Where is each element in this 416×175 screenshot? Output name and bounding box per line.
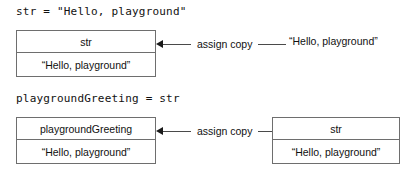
connector-assign-copy-bottom: assign copy xyxy=(156,124,272,138)
variable-box-playgroundgreeting: playgroundGreeting “Hello, playground” xyxy=(16,117,156,164)
connector-label: assign copy xyxy=(191,38,258,50)
code-caption-str-assignment: str = "Hello, playground" xyxy=(16,5,187,19)
connector-rule-left xyxy=(163,44,191,45)
variable-box-str-bottom: str “Hello, playground” xyxy=(272,117,400,164)
connector-label: assign copy xyxy=(191,125,258,137)
variable-name-cell: str xyxy=(273,118,399,140)
arrow-left-icon xyxy=(156,127,163,135)
code-caption-playgroundgreeting-assignment: playgroundGreeting = str xyxy=(16,92,180,106)
value-semantics-diagram: str = "Hello, playground" str “Hello, pl… xyxy=(0,0,416,175)
literal-value-text-top: “Hello, playground” xyxy=(289,35,378,47)
variable-name-cell: playgroundGreeting xyxy=(17,118,155,140)
variable-box-str-top: str “Hello, playground” xyxy=(16,30,156,77)
variable-name-cell: str xyxy=(17,31,155,53)
arrow-left-icon xyxy=(156,40,163,48)
variable-value-cell: “Hello, playground” xyxy=(17,53,155,77)
connector-rule-left xyxy=(163,131,191,132)
variable-value-cell: “Hello, playground” xyxy=(17,140,155,164)
connector-rule-right xyxy=(258,44,286,45)
variable-value-cell: “Hello, playground” xyxy=(273,140,399,164)
